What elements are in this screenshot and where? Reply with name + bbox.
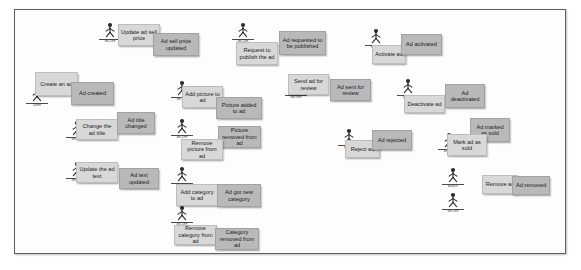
command-note[interactable]: Deactivate ad	[404, 95, 445, 113]
note-text: Add picture to ad	[185, 91, 220, 104]
note-text: Request to publish the ad	[239, 47, 275, 60]
stick-figure-icon	[369, 28, 383, 44]
stick-figure-icon	[446, 192, 460, 208]
note-text: Add category to ad	[179, 189, 215, 202]
actor-role-label: SELLER	[281, 96, 311, 100]
stick-figure-icon	[175, 166, 189, 182]
event-note[interactable]: Ad activated	[401, 34, 442, 55]
stick-figure-icon	[175, 118, 189, 134]
command-note[interactable]: Request to publish the ad	[236, 42, 278, 65]
note-text: Remove picture from ad	[184, 140, 220, 159]
event-note[interactable]: Category removed from ad	[215, 228, 259, 250]
note-text: Update the ad text	[79, 166, 115, 179]
actor-role-label: SELLER	[438, 210, 468, 214]
event-note[interactable]: Ad requested to be published	[279, 31, 326, 55]
note-text: Picture removed from ad	[221, 127, 258, 146]
stick-figure-icon	[446, 167, 460, 183]
actor-role-label: USER	[22, 104, 52, 108]
note-text: Ad deactivated	[448, 90, 482, 103]
actor-seller[interactable]: SELLER	[438, 192, 468, 214]
note-text: Ad requested to be published	[282, 37, 323, 50]
event-note[interactable]: Ad rejected	[372, 130, 412, 150]
event-note[interactable]: Ad deactivated	[445, 84, 485, 108]
board-root: SELLERSELLERADMINUSERSELLERSELLERADMINSE…	[0, 0, 581, 270]
event-note[interactable]: Ad text updated	[119, 168, 159, 189]
event-note[interactable]: Ad sell price updated	[153, 33, 199, 56]
note-text: Remove ad	[485, 181, 515, 187]
command-note[interactable]: Remove picture from ad	[181, 139, 223, 160]
note-text: Ad created	[74, 90, 111, 96]
event-note[interactable]: Picture added to ad	[216, 97, 262, 119]
note-text: Ad sell price updated	[156, 38, 196, 51]
note-text: Create an ad	[38, 81, 75, 87]
command-note[interactable]: Send ad for review	[288, 74, 329, 95]
actor-seller[interactable]: SELLER	[167, 205, 197, 227]
actor-seller[interactable]: SELLER	[167, 118, 197, 140]
note-text: Deactivate ad	[407, 101, 442, 107]
note-text: Picture added to ad	[219, 102, 259, 115]
actor-seller[interactable]: SELLER	[228, 22, 258, 44]
command-note[interactable]: Mark ad as sold	[447, 134, 487, 156]
event-note[interactable]: Ad got new category	[217, 184, 261, 207]
event-note[interactable]: Ad created	[71, 82, 114, 105]
note-text: Ad text updated	[122, 172, 156, 185]
command-note[interactable]: Remove category from ad	[174, 225, 217, 245]
note-text: Ad sent for review	[333, 84, 368, 97]
note-text: Update ad sell price	[121, 29, 157, 42]
event-note[interactable]: Ad sent for review	[330, 79, 371, 101]
note-text: Change the ad title	[79, 123, 115, 136]
note-text: Ad rejected	[375, 137, 409, 143]
note-text: Category removed from ad	[218, 229, 256, 248]
note-text: Ad title changed	[120, 117, 152, 130]
event-note[interactable]: Picture removed from ad	[218, 126, 261, 148]
command-note[interactable]: Add category to ad	[176, 184, 218, 206]
event-note[interactable]: Ad title changed	[117, 112, 155, 134]
command-note[interactable]: Update the ad text	[76, 162, 118, 183]
note-text: Remove category from ad	[177, 225, 214, 244]
event-note[interactable]: Ad removed	[512, 176, 550, 195]
stick-figure-icon	[401, 78, 415, 94]
actor-admin[interactable]: ADMIN	[438, 167, 468, 189]
stick-figure-icon	[175, 205, 189, 221]
note-text: Activate ad	[375, 51, 403, 57]
diagram-canvas: SELLERSELLERADMINUSERSELLERSELLERADMINSE…	[0, 0, 581, 270]
command-note[interactable]: Change the ad title	[76, 119, 118, 140]
actor-role-label: ADMIN	[438, 185, 468, 189]
note-text: Ad removed	[515, 182, 547, 188]
note-text: Send ad for review	[291, 78, 326, 91]
stick-figure-icon	[103, 22, 117, 38]
note-text: Mark ad as sold	[450, 139, 484, 152]
stick-figure-icon	[236, 22, 250, 38]
note-text: Ad got new category	[220, 189, 258, 202]
note-text: Ad activated	[404, 41, 439, 47]
